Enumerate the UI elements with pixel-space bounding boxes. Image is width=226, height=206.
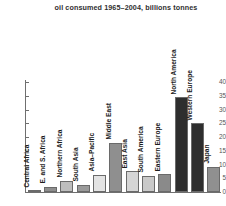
bar[interactable]: [77, 185, 90, 192]
y-tick-mark: [25, 192, 29, 193]
bar-group[interactable]: Japan: [207, 0, 220, 192]
bar-category-label: South Asia: [73, 148, 80, 182]
bar-category-label: Western Europe: [188, 70, 195, 120]
bar-group[interactable]: E. and S. Africa: [44, 0, 57, 192]
bar-group[interactable]: Northern Africa: [60, 0, 73, 192]
bar-category-label: East Asia: [122, 139, 129, 168]
bar-category-label: Northern Africa: [57, 130, 64, 178]
bar[interactable]: [158, 174, 171, 192]
bar[interactable]: [207, 167, 220, 192]
bar-category-label: Eastern Europe: [155, 122, 162, 171]
plot-area: 0510152025303540 Central AfricaE. and S.…: [0, 0, 226, 206]
bar-group[interactable]: Asia–Pacific: [93, 0, 106, 192]
bar[interactable]: [28, 190, 41, 192]
bar[interactable]: [142, 176, 155, 193]
bar-category-label: E. and S. Africa: [41, 136, 48, 184]
bar-category-label: Japan: [204, 145, 211, 164]
bar-group[interactable]: Eastern Europe: [158, 0, 171, 192]
bar-category-label: Middle East: [106, 103, 113, 140]
bar[interactable]: [93, 175, 106, 192]
bar-category-label: North America: [171, 49, 178, 94]
bar[interactable]: [126, 171, 139, 192]
bar[interactable]: [44, 187, 57, 192]
bar-category-label: South America: [139, 126, 146, 172]
bar[interactable]: [191, 123, 204, 192]
x-axis-line: [25, 192, 221, 193]
bar-group[interactable]: Middle East: [109, 0, 122, 192]
bar[interactable]: [109, 143, 122, 193]
bar-category-label: Asia–Pacific: [90, 133, 97, 172]
bar-category-label: Central Africa: [24, 145, 31, 188]
bar-group[interactable]: Western Europe: [191, 0, 204, 192]
bar-series: Central AfricaE. and S. AfricaNorthern A…: [26, 0, 222, 192]
bar[interactable]: [60, 181, 73, 192]
bar-group[interactable]: South America: [142, 0, 155, 192]
chart-root: oil consumed 1965–2004, billions tonnes …: [0, 0, 226, 206]
